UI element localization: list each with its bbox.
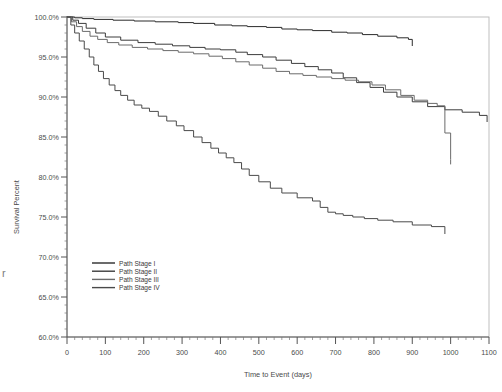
x-axis-title: Time to Event (days): [244, 370, 312, 379]
y-axis-tick-label: 100.0%: [35, 13, 60, 22]
kaplan-meier-plot: 60.0%65.0%70.0%75.0%80.0%85.0%90.0%95.0%…: [0, 0, 502, 392]
stray-character: r: [2, 267, 6, 279]
x-axis-tick-label: 0: [65, 348, 69, 357]
x-axis-tick-label: 400: [214, 348, 226, 357]
x-axis-tick-label: 1100: [481, 348, 496, 357]
y-axis-tick-label: 60.0%: [39, 333, 60, 342]
y-axis-tick-label: 75.0%: [39, 213, 60, 222]
y-axis-tick-label: 95.0%: [39, 53, 60, 62]
x-axis-tick-label: 500: [253, 348, 265, 357]
legend-label-stage-3: Path Stage III: [119, 276, 159, 284]
x-axis-tick-label: 200: [138, 348, 150, 357]
x-axis-tick-label: 100: [99, 348, 111, 357]
x-axis-tick-label: 900: [406, 348, 418, 357]
survival-curve-stage-4: [67, 17, 445, 229]
y-axis-tick-label: 90.0%: [39, 93, 60, 102]
legend-label-stage-2: Path Stage II: [119, 268, 157, 276]
legend-label-stage-4: Path Stage IV: [119, 284, 160, 292]
x-axis-tick-label: 700: [330, 348, 342, 357]
y-axis-title: Survival Percent: [12, 180, 21, 234]
legend-label-stage-1: Path Stage I: [119, 260, 155, 268]
x-axis-tick-label: 600: [291, 348, 303, 357]
y-axis-tick-label: 65.0%: [39, 293, 60, 302]
x-axis-tick-label: 300: [176, 348, 188, 357]
x-axis-tick-label: 1000: [443, 348, 459, 357]
y-axis-tick-label: 85.0%: [39, 133, 60, 142]
survival-curve-stage-2: [67, 17, 487, 117]
x-axis-tick-label: 800: [368, 348, 380, 357]
y-axis-tick-label: 80.0%: [39, 173, 60, 182]
y-axis-tick-label: 70.0%: [39, 253, 60, 262]
survival-curve-stage-3: [67, 17, 451, 159]
survival-chart: 60.0%65.0%70.0%75.0%80.0%85.0%90.0%95.0%…: [0, 0, 502, 392]
